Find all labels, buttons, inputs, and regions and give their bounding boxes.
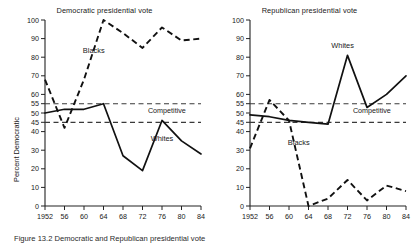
x-axis-ticks-republican: 19525660646872768084 <box>242 206 410 221</box>
y-tick-label-10: 10 <box>31 183 39 192</box>
y-tick-label-100: 100 <box>27 16 39 25</box>
figure-root: Democratic presidential vote Percent Dem… <box>0 0 419 244</box>
y-tick-label-70: 70 <box>236 71 244 80</box>
y-tick-label-55: 55 <box>236 99 244 108</box>
y-tick-label-60: 60 <box>236 90 244 99</box>
x-tick-label-1956: 56 <box>61 212 69 221</box>
y-tick-label-20: 20 <box>236 164 244 173</box>
y-tick-label-100: 100 <box>232 16 244 25</box>
y-tick-label-40: 40 <box>31 127 39 136</box>
chart-panel-republican: Republican presidential vote Percent Rep… <box>205 0 414 232</box>
y-tick-label-45: 45 <box>236 118 244 127</box>
x-axis-ticks-democratic: 19525660646872768084 <box>37 206 205 221</box>
y-tick-label-45: 45 <box>31 118 39 127</box>
y-tick-label-10: 10 <box>236 183 244 192</box>
y-tick-label-90: 90 <box>236 34 244 43</box>
series-label-blacks-republican: Blacks <box>288 138 310 147</box>
y-tick-label-0: 0 <box>35 202 39 211</box>
y-tick-label-50: 50 <box>236 109 244 118</box>
x-tick-label-1952: 1952 <box>242 212 258 221</box>
plot-area-republican: 01020304045505560708090100 1952566064687… <box>205 0 414 232</box>
y-tick-label-50: 50 <box>31 109 39 118</box>
x-tick-label-1980: 80 <box>178 212 186 221</box>
x-tick-label-1964: 64 <box>305 212 313 221</box>
y-tick-label-40: 40 <box>236 127 244 136</box>
x-tick-label-1960: 60 <box>285 212 293 221</box>
y-tick-label-0: 0 <box>240 202 244 211</box>
chart-svg-democratic: 01020304045505560708090100 1952566064687… <box>0 0 209 232</box>
y-tick-label-60: 60 <box>31 90 39 99</box>
y-tick-label-70: 70 <box>31 71 39 80</box>
x-tick-label-1964: 64 <box>100 212 108 221</box>
y-tick-label-30: 30 <box>236 146 244 155</box>
chart-panel-democratic: Democratic presidential vote Percent Dem… <box>0 0 209 232</box>
x-tick-label-1968: 68 <box>119 212 127 221</box>
series-label-blacks-democratic: Blacks <box>83 46 105 55</box>
series-line-blacks-republican <box>250 100 406 206</box>
x-tick-label-1972: 72 <box>139 212 147 221</box>
competitive-label-republican: Competitive <box>353 106 391 115</box>
y-tick-label-90: 90 <box>31 34 39 43</box>
x-tick-label-1976: 76 <box>363 212 371 221</box>
y-axis-ticks-democratic: 01020304045505560708090100 <box>27 16 45 211</box>
x-tick-label-1956: 56 <box>266 212 274 221</box>
y-tick-label-30: 30 <box>31 146 39 155</box>
series-label-whites-republican: Whites <box>331 41 354 50</box>
x-tick-label-1976: 76 <box>158 212 166 221</box>
x-tick-label-1984: 84 <box>197 212 205 221</box>
x-tick-label-1960: 60 <box>80 212 88 221</box>
chart-svg-republican: 01020304045505560708090100 1952566064687… <box>205 0 414 232</box>
figure-caption: Figure 13.2 Democratic and Republican pr… <box>14 233 414 244</box>
y-tick-label-20: 20 <box>31 164 39 173</box>
y-tick-label-55: 55 <box>31 99 39 108</box>
x-tick-label-1984: 84 <box>402 212 410 221</box>
x-tick-label-1972: 72 <box>344 212 352 221</box>
x-tick-label-1968: 68 <box>324 212 332 221</box>
series-label-whites-democratic: Whites <box>151 134 174 143</box>
y-axis-ticks-republican: 01020304045505560708090100 <box>232 16 250 211</box>
x-tick-label-1980: 80 <box>383 212 391 221</box>
plot-area-democratic: 01020304045505560708090100 1952566064687… <box>0 0 209 232</box>
competitive-label-democratic: Competitive <box>148 106 186 115</box>
y-tick-label-80: 80 <box>236 53 244 62</box>
x-tick-label-1952: 1952 <box>37 212 53 221</box>
y-tick-label-80: 80 <box>31 53 39 62</box>
